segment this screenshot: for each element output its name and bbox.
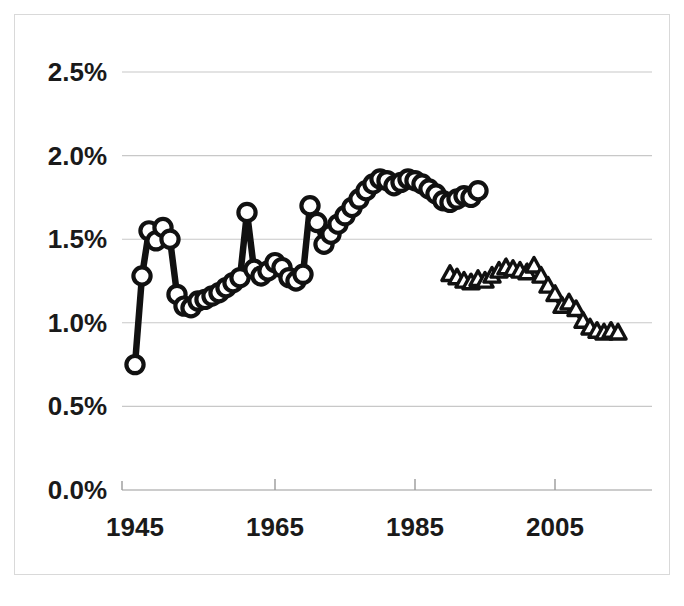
data-point-circle <box>126 356 143 373</box>
data-point-circle <box>469 182 486 199</box>
y-tick-label: 2.5% <box>48 57 107 87</box>
data-point-circle <box>133 267 150 284</box>
x-tick-labels: 1945196519852005 <box>106 512 584 542</box>
data-point-circle <box>301 197 318 214</box>
series-markers <box>126 170 626 373</box>
chart-plot-area: 0.0%0.5%1.0%1.5%2.0%2.5% 194519651985200… <box>0 0 684 606</box>
x-tick-label: 2005 <box>526 512 584 542</box>
y-tick-labels: 0.0%0.5%1.0%1.5%2.0%2.5% <box>48 57 107 505</box>
chart-figure: 0.0%0.5%1.0%1.5%2.0%2.5% 194519651985200… <box>0 0 684 606</box>
x-tick-label: 1945 <box>106 512 164 542</box>
data-point-circle <box>294 266 311 283</box>
axis-lines <box>122 481 652 490</box>
data-point-circle <box>161 231 178 248</box>
series-lines <box>135 179 618 365</box>
x-tick-marks <box>275 479 555 490</box>
y-tick-label: 0.0% <box>48 475 107 505</box>
x-tick-label: 1985 <box>386 512 444 542</box>
y-tick-label: 1.5% <box>48 224 107 254</box>
y-tick-label: 1.0% <box>48 308 107 338</box>
data-point-circle <box>238 204 255 221</box>
x-tick-label: 1965 <box>246 512 304 542</box>
y-tick-label: 0.5% <box>48 391 107 421</box>
y-tick-label: 2.0% <box>48 141 107 171</box>
gridlines <box>122 72 652 490</box>
